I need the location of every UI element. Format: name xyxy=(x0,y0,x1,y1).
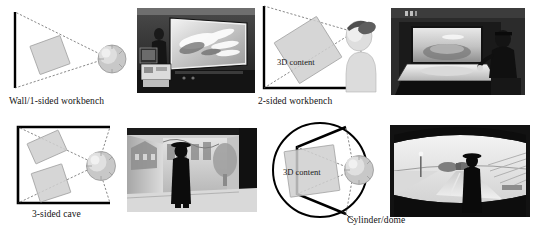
content-quad xyxy=(274,16,342,83)
photo-3-sided-cave xyxy=(127,128,257,212)
diagram-3-sided-cave xyxy=(6,119,134,214)
content-label-cylinder-dome: 3D content xyxy=(283,167,321,177)
photo-2-sided-workbench xyxy=(391,8,525,95)
diagram-svg-wall xyxy=(0,0,134,100)
content-quad xyxy=(30,35,70,74)
viewer-avatar xyxy=(346,20,377,92)
panel-3-sided-cave: 3-sided cave xyxy=(0,119,268,238)
diagram-svg-cylinder xyxy=(262,115,392,221)
diagram-svg-3-sided xyxy=(6,119,134,214)
vr-display-configurations-figure: Wall/1-sided workbench xyxy=(0,0,534,238)
panel-2-sided-workbench: 3D content 2-sided workbench xyxy=(258,0,534,119)
viewer-head xyxy=(344,156,374,185)
content-quad-upper xyxy=(27,130,67,164)
viewer-head xyxy=(86,152,116,181)
panel-wall-1-sided-workbench: Wall/1-sided workbench xyxy=(0,0,134,119)
diagram-cylinder-dome xyxy=(262,115,392,221)
caption-3-sided-cave: 3-sided cave xyxy=(32,209,81,219)
photo-wall-1-sided-workbench xyxy=(137,8,255,93)
diagram-svg-2-sided xyxy=(258,0,398,100)
content-quad-lower xyxy=(31,164,71,202)
panel-cylinder-dome: 3D content Cylinder/dome xyxy=(262,115,534,238)
photo-cylinder-dome xyxy=(390,125,530,217)
diagram-2-sided-workbench xyxy=(258,0,398,100)
caption-wall-1-sided-workbench: Wall/1-sided workbench xyxy=(9,96,104,106)
diagram-wall-1-sided-workbench xyxy=(0,0,134,100)
viewer-head xyxy=(98,45,126,73)
caption-2-sided-workbench: 2-sided workbench xyxy=(258,96,332,106)
content-label-2-sided-workbench: 3D content xyxy=(277,57,315,67)
